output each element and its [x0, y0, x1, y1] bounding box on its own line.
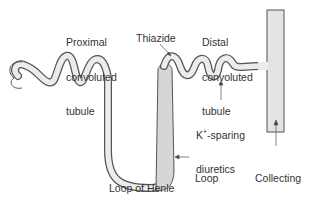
label-collecting: Collecting tubule [255, 150, 301, 201]
label-loop-of-henle: Loop of Henle [109, 183, 174, 195]
label-loop-diuretics: Loop diuretics [195, 150, 234, 201]
thick-ascending-limb [156, 64, 174, 190]
collecting-tubule [267, 10, 284, 132]
label-proximal: Proximal convoluted tubule [66, 14, 117, 129]
label-thiazide: Thiazide [136, 33, 176, 45]
